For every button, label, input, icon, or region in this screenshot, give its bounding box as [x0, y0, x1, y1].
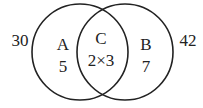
circle-b-label: B: [140, 36, 151, 53]
outside-right-value: 42: [180, 32, 197, 49]
intersection-label: C: [95, 30, 106, 47]
circle-a-value: 5: [59, 58, 68, 75]
outside-left-value: 30: [12, 32, 29, 49]
circle-a-label: A: [57, 36, 69, 53]
circle-b-value: 7: [142, 58, 151, 75]
intersection-value: 2×3: [88, 52, 115, 69]
